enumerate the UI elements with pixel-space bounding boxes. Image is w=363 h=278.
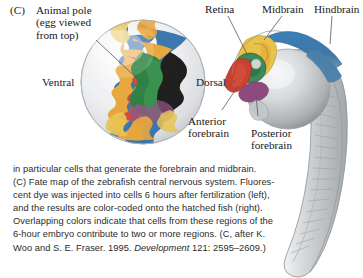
label-anterior-forebrain: Anterior forebrain bbox=[188, 115, 229, 140]
egg-animal-pole-view bbox=[81, 17, 205, 147]
label-midbrain: Midbrain bbox=[262, 3, 304, 15]
caption-line: in particular cells that generate the fo… bbox=[13, 163, 293, 176]
label-dorsal: Dorsal bbox=[196, 76, 226, 88]
figure-caption: in particular cells that generate the fo… bbox=[13, 163, 293, 255]
label-hindbrain: Hindbrain bbox=[314, 3, 359, 15]
caption-line: (C) Fate map of the zebrafish central ne… bbox=[13, 176, 293, 189]
label-animal-pole: Animal pole (egg viewed from top) bbox=[36, 4, 92, 41]
leader-line-hindbrain bbox=[330, 16, 332, 44]
leader-line-retina bbox=[228, 16, 248, 56]
caption-line: and the results are color-coded onto the… bbox=[13, 202, 293, 215]
panel-letter: (C) bbox=[10, 4, 25, 16]
citation-volume-pages: 121: 2595–2609.) bbox=[189, 243, 265, 253]
fish-lens bbox=[251, 59, 261, 69]
citation-authors: Woo and S. E. Fraser. 1995. bbox=[13, 243, 134, 253]
citation-journal: Development bbox=[134, 243, 189, 253]
caption-line: 6-hour embryo contribute to two or more … bbox=[13, 228, 293, 241]
label-ventral: Ventral bbox=[42, 76, 74, 88]
label-posterior-forebrain: Posterior forebrain bbox=[251, 127, 292, 152]
label-retina: Retina bbox=[205, 3, 234, 15]
caption-line: Overlapping colors indicate that cells f… bbox=[13, 215, 293, 228]
caption-line: cent dye was injected into cells 6 hours… bbox=[13, 189, 293, 202]
figure-panel-c: (C) Animal pole (egg viewed from top) Ve… bbox=[0, 0, 363, 278]
caption-line-citation: Woo and S. E. Fraser. 1995. Development … bbox=[13, 242, 293, 255]
